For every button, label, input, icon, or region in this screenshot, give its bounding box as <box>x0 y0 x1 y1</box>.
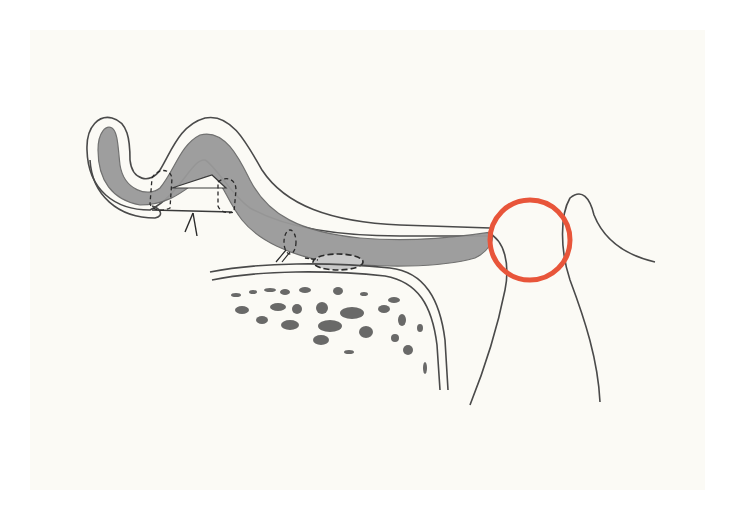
tooth-outline-right <box>563 194 656 402</box>
anatomical-illustration <box>0 0 730 510</box>
figure-canvas <box>0 0 730 510</box>
tooth-outline-left <box>470 233 507 405</box>
pointer-line-1 <box>185 213 193 232</box>
highlight-circle <box>490 200 570 280</box>
suture-ellipse-bone <box>313 254 363 270</box>
bone-trabecular-spots <box>231 287 427 374</box>
pointer-line-2 <box>193 213 197 236</box>
suture-knot <box>276 250 290 262</box>
